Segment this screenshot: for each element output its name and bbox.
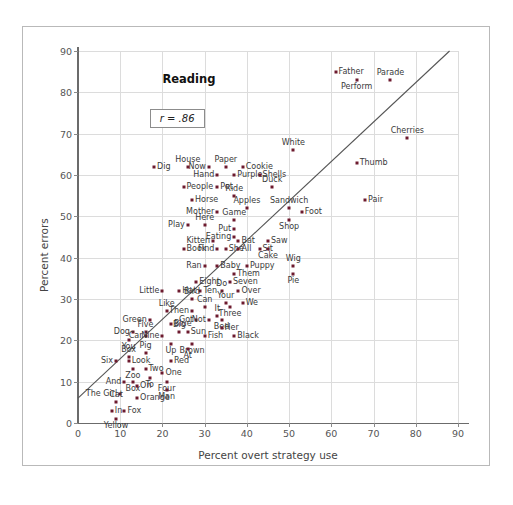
data-point [123,409,126,412]
data-point-label: Saw [271,237,288,245]
data-point-label: Perform [341,83,372,91]
y-tick-label: 70 [60,128,72,139]
data-point-label: It [215,305,221,313]
data-point-label: Pair [368,196,383,204]
y-tick-label: 80 [60,87,72,98]
data-point [224,302,227,305]
x-tick-mark [416,423,417,427]
data-point-label: White [282,139,305,147]
data-point [389,78,392,81]
data-point [144,368,147,371]
data-point [136,384,139,387]
data-point-label: Not [192,316,206,324]
data-point-label: Your [217,292,234,300]
data-point-label: Horse [195,196,218,204]
data-point [115,360,118,363]
data-point-label: Over [241,287,260,295]
data-point [169,322,172,325]
data-point-label: Cat [109,391,123,399]
data-point [334,70,337,73]
y-tick-label: 50 [60,211,72,222]
data-point [288,207,291,210]
data-point [233,227,236,230]
data-point [161,289,164,292]
data-point-label: Parade [377,69,405,77]
data-point [161,372,164,375]
y-tick-label: 20 [60,335,72,346]
data-point [241,165,244,168]
data-point [237,240,240,243]
y-tick-label: 30 [60,294,72,305]
data-point [191,198,194,201]
data-point-label: On [140,382,151,390]
data-point-label: Play [168,221,185,229]
data-point-label: People [187,183,214,191]
data-point-label: Do [216,280,227,288]
x-tick-mark [458,423,459,427]
data-point [229,281,232,284]
data-point-label: Shop [279,223,299,231]
x-tick-label: 60 [325,428,337,439]
data-point [191,298,194,301]
data-point [153,165,156,168]
data-point [216,186,219,189]
data-point [245,264,248,267]
plot-area: 01020304050607080900102030405060708090 F… [78,51,458,423]
data-point [237,289,240,292]
data-point-label: Cherries [391,127,424,135]
data-point [182,248,185,251]
data-point [186,331,189,334]
data-point [178,331,181,334]
data-point-label: Zoo [125,372,140,380]
data-point-label: Apples [233,197,260,205]
data-point [195,281,198,284]
data-point-label: Pig [140,342,152,350]
trendline [78,51,458,423]
data-point [258,174,261,177]
x-tick-mark [289,423,290,427]
y-tick-label: 40 [60,252,72,263]
data-point-label: Orange [140,394,170,402]
data-point-label: All [241,245,251,253]
data-point [355,161,358,164]
data-point [300,211,303,214]
y-tick-label: 60 [60,170,72,181]
data-point [292,264,295,267]
data-point-label: Cake [258,252,278,260]
data-point-label: Three [219,310,242,318]
data-point [178,289,181,292]
x-tick-mark [331,423,332,427]
data-point-label: Book [187,245,207,253]
data-point [233,335,236,338]
y-tick-label: 90 [60,46,72,57]
data-point [136,397,139,400]
data-point [364,198,367,201]
gridline-vertical [458,51,459,423]
data-point-label: We [246,299,258,307]
data-point [241,302,244,305]
x-tick-label: 50 [283,428,295,439]
x-tick-mark [247,423,248,427]
x-tick-mark [374,423,375,427]
x-tick-label: 90 [452,428,464,439]
data-point-label: And [106,378,122,386]
data-point-label: Dig [157,163,170,171]
data-point [216,264,219,267]
data-point [220,326,223,329]
data-point-label: Thumb [360,159,388,167]
data-point-label: Red [174,357,189,365]
data-point [233,273,236,276]
y-axis-label: Percent errors [38,218,50,292]
data-point-label: Nine [141,332,159,340]
correlation-annotation: r = .86 [150,109,205,128]
x-tick-label: 80 [410,428,422,439]
x-tick-label: 40 [241,428,253,439]
data-point-label: Game [222,209,246,217]
data-point-label: Pie [287,277,299,285]
x-tick-label: 20 [156,428,168,439]
data-point [127,360,130,363]
data-point [224,248,227,251]
data-point [203,335,206,338]
data-point-label: Fox [127,407,141,415]
data-point-label: Fish [208,332,223,340]
